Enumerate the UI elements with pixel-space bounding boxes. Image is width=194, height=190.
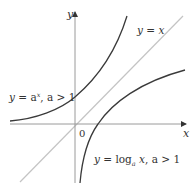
function-inverse-diagram: y x 0 y = x y = ax, a > 1 y = loga x, a … (0, 0, 194, 190)
logarithm-label: y = loga x, a > 1 (93, 153, 180, 168)
exponential-curve (10, 16, 127, 121)
origin-label: 0 (79, 128, 85, 139)
exponential-label: y = ax, a > 1 (8, 91, 75, 103)
y-axis-label: y (66, 8, 74, 21)
identity-label: y = x (136, 24, 164, 36)
x-axis-label: x (183, 127, 190, 140)
